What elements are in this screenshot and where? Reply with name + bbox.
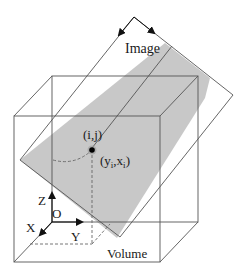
z-axis-label: Z xyxy=(38,193,46,208)
projection-diagram: Image (i,j) (yi,xi) Z O X Y Volume xyxy=(0,0,246,277)
image-slice-region xyxy=(20,43,210,238)
image-axis-arrows xyxy=(119,17,154,35)
image-label: Image xyxy=(125,41,160,56)
sample-point xyxy=(89,147,95,153)
origin-label: O xyxy=(52,206,61,221)
x-axis-label: X xyxy=(26,220,36,235)
x-axis-arrow xyxy=(40,222,52,235)
point-label: (yi,xi) xyxy=(100,153,130,170)
volume-label: Volume xyxy=(107,246,147,261)
y-axis-label: Y xyxy=(71,229,81,244)
pixel-label: (i,j) xyxy=(83,127,102,142)
